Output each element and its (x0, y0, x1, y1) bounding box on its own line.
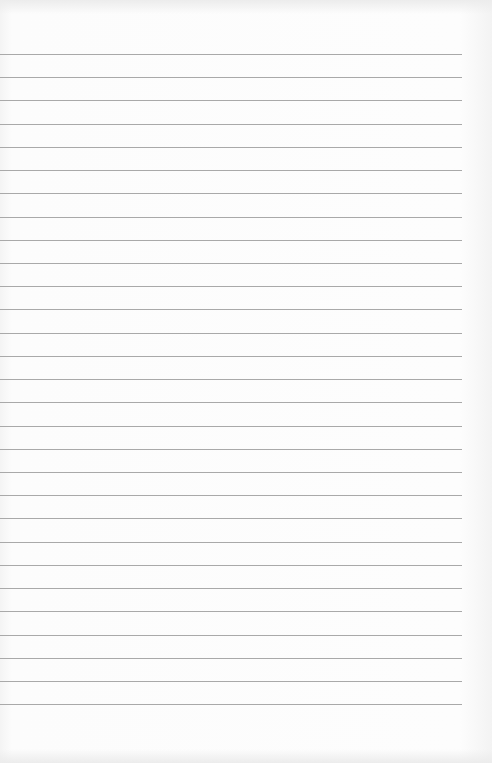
ruled-line (0, 54, 462, 55)
ruled-line (0, 449, 462, 450)
ruled-line (0, 240, 462, 241)
ruled-line (0, 124, 462, 125)
ruled-line (0, 379, 462, 380)
ruled-line (0, 170, 462, 171)
ruled-line (0, 217, 462, 218)
ruled-line (0, 286, 462, 287)
ruled-line (0, 402, 462, 403)
lined-paper-page (0, 0, 492, 763)
ruled-line (0, 77, 462, 78)
ruled-line (0, 704, 462, 705)
ruled-line (0, 565, 462, 566)
ruled-line (0, 518, 462, 519)
ruled-line (0, 542, 462, 543)
ruled-line (0, 472, 462, 473)
ruled-line (0, 426, 462, 427)
ruled-line (0, 309, 462, 310)
ruled-line (0, 333, 462, 334)
ruled-line (0, 263, 462, 264)
ruled-line (0, 588, 462, 589)
ruled-line (0, 356, 462, 357)
ruled-line (0, 611, 462, 612)
ruled-line (0, 495, 462, 496)
ruled-line (0, 147, 462, 148)
ruled-line (0, 193, 462, 194)
ruled-line (0, 635, 462, 636)
ruled-line (0, 681, 462, 682)
ruled-line (0, 100, 462, 101)
ruled-line (0, 658, 462, 659)
